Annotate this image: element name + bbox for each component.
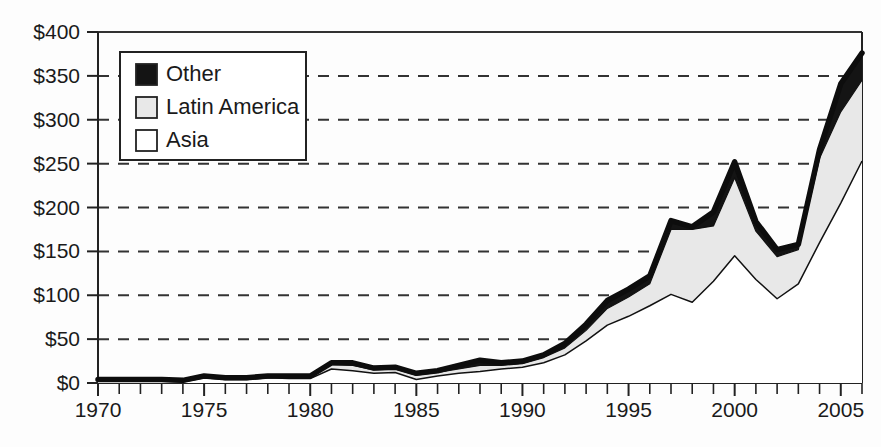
x-tick-label-1995: 1995 (605, 398, 652, 421)
legend-swatch-other (136, 64, 157, 85)
y-tick-label-150: $150 (33, 239, 80, 262)
x-tick-label-2000: 2000 (711, 398, 758, 421)
x-tick-label-1970: 1970 (75, 398, 122, 421)
y-tick-label-200: $200 (33, 196, 80, 219)
x-tick-label-2005: 2005 (817, 398, 864, 421)
legend-label-latin-america: Latin America (166, 94, 300, 119)
legend-item-asia[interactable]: Asia (136, 127, 210, 152)
chart-legend: OtherLatin AmericaAsia (120, 52, 306, 160)
legend-swatch-latin-america (136, 97, 157, 118)
x-tick-label-1990: 1990 (499, 398, 546, 421)
y-tick-label-400: $400 (33, 20, 80, 43)
y-tick-label-300: $300 (33, 108, 80, 131)
stacked-area-chart: $0$50$100$150$200$250$300$350$400 197019… (0, 0, 881, 447)
legend-label-other: Other (166, 61, 221, 86)
y-tick-label-350: $350 (33, 64, 80, 87)
chart-figure: $0$50$100$150$200$250$300$350$400 197019… (0, 0, 881, 447)
y-tick-label-0: $0 (57, 371, 80, 394)
legend-item-other[interactable]: Other (136, 61, 221, 86)
y-tick-label-50: $50 (45, 327, 80, 350)
y-tick-label-100: $100 (33, 283, 80, 306)
legend-swatch-asia (136, 130, 157, 151)
legend-label-asia: Asia (166, 127, 210, 152)
x-tick-label-1980: 1980 (287, 398, 334, 421)
y-tick-label-250: $250 (33, 152, 80, 175)
x-tick-label-1985: 1985 (393, 398, 440, 421)
x-tick-label-1975: 1975 (181, 398, 228, 421)
